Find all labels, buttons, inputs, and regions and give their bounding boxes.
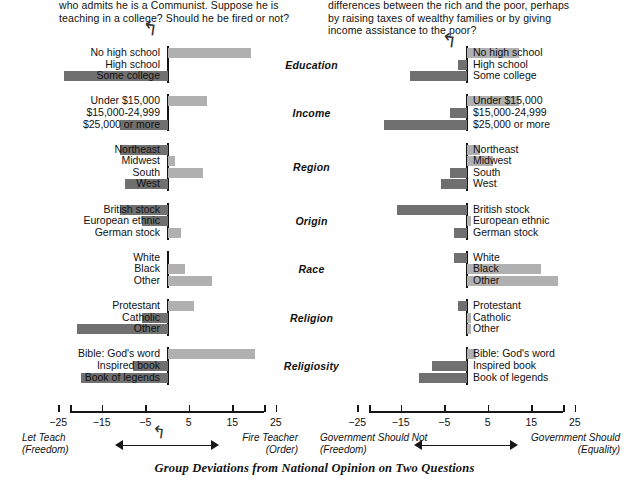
row-label: Protestant xyxy=(473,300,521,311)
axis-tick xyxy=(531,405,533,412)
right-anchor-low-sub: (Freedom) xyxy=(320,444,367,455)
row-label: British stock xyxy=(473,204,530,215)
group-label-education: Education xyxy=(0,59,629,71)
axis-tick xyxy=(276,405,278,412)
axis-tick xyxy=(488,405,490,412)
axis-tick-label: −15 xyxy=(384,416,418,428)
row-label: German stock xyxy=(95,227,160,238)
left-axis: −25−15−551525 xyxy=(0,399,300,429)
row-label: Bible: God's word xyxy=(78,348,160,359)
bar-no-high-school xyxy=(168,48,251,58)
axis-tick xyxy=(58,405,60,412)
axis-tick-label: −25 xyxy=(340,416,374,428)
bar-west xyxy=(441,179,467,189)
left-pointer-curly-icon: ↱ xyxy=(140,16,159,41)
left-axis-line xyxy=(70,411,264,413)
row-label: Some college xyxy=(473,70,537,81)
bar-under-15-000 xyxy=(168,96,207,106)
bar-german-stock xyxy=(454,228,467,238)
axis-tick-label: 15 xyxy=(215,416,249,428)
bar-british-stock xyxy=(397,205,467,215)
right-anchor-low-label: Government Should Not xyxy=(320,432,427,443)
axis-tick xyxy=(444,405,446,412)
arrow-shaft xyxy=(421,445,511,446)
bar-white xyxy=(454,253,467,263)
axis-tick xyxy=(189,405,191,412)
bar-bible-god-s-word xyxy=(168,349,255,359)
row-label: Other xyxy=(473,323,499,334)
right-anchor-high: Government Should (Equality) xyxy=(505,432,620,455)
right-axis-line xyxy=(369,411,563,413)
bar-other xyxy=(467,324,471,334)
row-label: Book of legends xyxy=(473,372,548,383)
row-label: West xyxy=(473,178,497,189)
axis-tick-label: −5 xyxy=(427,416,461,428)
bar-protestant xyxy=(458,301,467,311)
right-anchor-high-sub: (Equality) xyxy=(578,444,620,455)
axis-end-cap xyxy=(70,405,72,412)
bar-protestant xyxy=(168,301,194,311)
axis-tick xyxy=(575,405,577,412)
axis-end-cap xyxy=(264,405,266,412)
row-label: Some college xyxy=(96,70,160,81)
axis-tick xyxy=(145,405,147,412)
axis-tick-label: −25 xyxy=(41,416,75,428)
bar-25-000-or-more xyxy=(384,120,467,130)
axis-tick-label: 15 xyxy=(514,416,548,428)
right-axis: −25−15−551525 xyxy=(315,399,615,429)
row-label: Book of legends xyxy=(85,372,160,383)
axis-tick-label: 25 xyxy=(558,416,592,428)
left-anchor-low-label: Let Teach xyxy=(22,432,66,443)
bar-some-college xyxy=(410,71,467,81)
row-label: White xyxy=(473,252,500,263)
row-label: German stock xyxy=(473,227,538,238)
group-label-income: Income xyxy=(0,107,629,119)
row-label: $25,000 or more xyxy=(473,119,550,130)
figure-caption: Group Deviations from National Opinion o… xyxy=(0,461,629,476)
row-label: Northeast xyxy=(473,144,519,155)
axis-tick-label: 5 xyxy=(172,416,206,428)
row-label: Northeast xyxy=(114,144,160,155)
axis-tick-label: −15 xyxy=(85,416,119,428)
right-anchor-low: Government Should Not (Freedom) xyxy=(320,432,427,455)
axis-end-cap xyxy=(369,405,371,412)
row-label: Other xyxy=(134,275,160,286)
left-anchor-high-sub: (Order) xyxy=(266,444,298,455)
right-anchor-high-label: Government Should xyxy=(531,432,620,443)
row-label: Bible: God's word xyxy=(473,348,555,359)
row-label: $25,000 or more xyxy=(83,119,160,130)
group-label-religion: Religion xyxy=(0,312,629,324)
axis-end-cap xyxy=(563,405,565,412)
row-label: No high school xyxy=(473,47,542,58)
group-label-origin: Origin xyxy=(0,215,629,227)
left-anchor-low-sub: (Freedom) xyxy=(22,444,69,455)
row-label: Other xyxy=(134,323,160,334)
arrow-shaft xyxy=(122,445,212,446)
axis-tick-label: 25 xyxy=(259,416,293,428)
axis-tick xyxy=(357,405,359,412)
bar-other xyxy=(168,276,212,286)
bar-book-of-legends xyxy=(419,373,467,383)
left-axis-curly-icon: ↱ xyxy=(151,421,168,444)
row-label: British stock xyxy=(103,204,160,215)
axis-tick xyxy=(401,405,403,412)
row-label: Other xyxy=(473,275,499,286)
left-panel: who admits he is a Communist. Suppose he… xyxy=(0,0,315,483)
left-anchor-high-label: Fire Teacher xyxy=(242,432,298,443)
right-axis-arrow xyxy=(414,440,518,451)
axis-tick xyxy=(102,405,104,412)
group-label-region: Region xyxy=(0,161,629,173)
left-anchor-high: Fire Teacher (Order) xyxy=(200,432,298,455)
row-label: Under $15,000 xyxy=(473,95,542,106)
axis-tick xyxy=(232,405,234,412)
row-label: Protestant xyxy=(112,300,160,311)
group-label-religiosity: Religiosity xyxy=(0,360,629,372)
row-label: West xyxy=(136,178,160,189)
group-label-race: Race xyxy=(0,263,629,275)
axis-tick-label: 5 xyxy=(471,416,505,428)
bar-german-stock xyxy=(168,228,181,238)
left-question-text: who admits he is a Communist. Suppose he… xyxy=(59,0,304,24)
row-label: No high school xyxy=(91,47,160,58)
row-label: Under $15,000 xyxy=(91,95,160,106)
left-anchor-low: Let Teach (Freedom) xyxy=(22,432,69,455)
